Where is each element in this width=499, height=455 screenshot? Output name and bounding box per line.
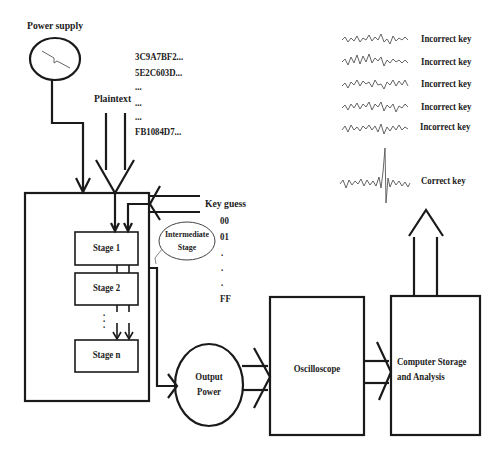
intermediate-stage-bubble: [159, 222, 215, 260]
keyguess-arrowhead: [150, 186, 160, 220]
intermediate-stage-line1: Intermediate: [163, 230, 211, 239]
arrow-to-oscilloscope: [254, 348, 270, 408]
key-guess-dot-3: .: [221, 278, 223, 288]
computer-label-line1: Computer Storage: [397, 357, 467, 367]
result-label-2: Incorrect key: [421, 57, 471, 67]
stage-1-label: Stage 1: [79, 243, 134, 253]
trace-incorrect-2: [342, 54, 408, 66]
power-wire: [52, 80, 83, 192]
output-power-circle: [175, 344, 243, 426]
diagram-canvas: [0, 0, 499, 455]
trace-incorrect-3: [342, 80, 408, 89]
stage-2-label: Stage 2: [79, 283, 134, 293]
key-guess-value-01: 01: [220, 232, 229, 242]
power-supply-label: Power supply: [27, 20, 83, 31]
output-power-line1: Output: [183, 372, 234, 382]
key-guess-value-00: 00: [220, 216, 229, 226]
result-label-correct: Correct key: [421, 176, 466, 186]
trace-correct: [340, 148, 410, 203]
output-power-line2: Power: [183, 387, 234, 397]
power-supply-circle: [30, 38, 80, 80]
arrow-to-computer: [377, 342, 391, 400]
key-guess-label: Key guess: [205, 198, 246, 209]
plaintext-value-4: ...: [135, 98, 142, 108]
plaintext-value-6: FB1084D7...: [135, 127, 181, 137]
result-label-3: Incorrect key: [421, 79, 471, 89]
trace-incorrect-5: [342, 124, 408, 134]
result-label-1: Incorrect key: [421, 34, 471, 44]
stage-n-label: Stage n: [79, 350, 134, 360]
key-guess-dot-1: .: [221, 248, 223, 258]
stage-ellipsis: ...: [103, 310, 105, 328]
trace-incorrect-1: [342, 34, 408, 44]
key-guess-dot-2: .: [221, 263, 223, 273]
plaintext-value-3: ...: [135, 82, 142, 92]
key-guess-value-ff: FF: [220, 294, 231, 304]
result-label-4: Incorrect key: [421, 102, 471, 112]
oscilloscope-label: Oscilloscope: [277, 364, 356, 374]
trace-incorrect-4: [342, 102, 408, 112]
arrow-to-results: [409, 210, 443, 236]
plaintext-value-2: 5E2C603D...: [135, 68, 182, 78]
intermediate-stage-line2: Stage: [163, 243, 211, 252]
output-wire: [149, 268, 176, 386]
result-label-5: Incorrect key: [420, 122, 470, 132]
plaintext-value-1: 3C9A7BF2...: [135, 52, 183, 62]
plaintext-arrowhead: [96, 160, 134, 193]
computer-label-line2: and Analysis: [397, 372, 445, 382]
plaintext-label: Plaintext: [94, 93, 131, 104]
plaintext-value-5: ...: [135, 112, 142, 122]
